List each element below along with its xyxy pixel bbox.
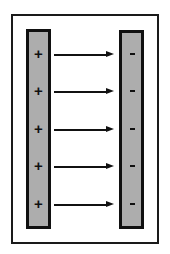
- positive-charge: +: [26, 83, 51, 98]
- positive-charge: +: [26, 196, 51, 211]
- field-line-arrow: [54, 91, 106, 93]
- arrowhead-icon: [106, 126, 114, 132]
- arrowhead-icon: [106, 201, 114, 207]
- negative-charge: -: [130, 128, 135, 130]
- field-line-arrow: [54, 204, 106, 206]
- field-line-arrow: [54, 166, 106, 168]
- arrowhead-icon: [106, 51, 114, 57]
- arrowhead-icon: [106, 88, 114, 94]
- arrowhead-icon: [106, 163, 114, 169]
- positive-charge: +: [26, 158, 51, 173]
- positive-charge: +: [26, 46, 51, 61]
- field-line-arrow: [54, 54, 106, 56]
- negative-charge: -: [130, 165, 135, 167]
- positive-charge: +: [26, 121, 51, 136]
- negative-charge: -: [130, 203, 135, 205]
- negative-charge: -: [130, 53, 135, 55]
- field-line-arrow: [54, 129, 106, 131]
- negative-charge: -: [130, 90, 135, 92]
